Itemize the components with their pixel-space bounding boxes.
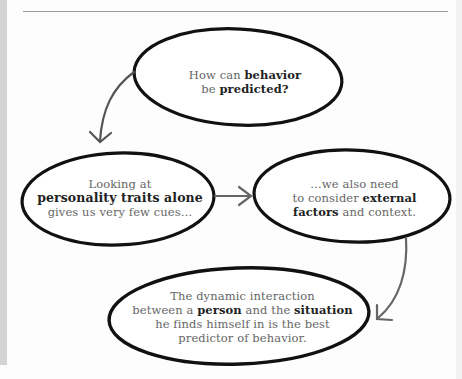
text-segment: between a [132, 303, 197, 317]
text-segment-bold: predicted? [219, 82, 288, 96]
text-line: factors and context. [262, 205, 447, 219]
text-segment: to consider [293, 191, 363, 205]
text-segment-bold: factors [293, 205, 339, 219]
text-line: be predicted? [165, 82, 325, 96]
node-traits-text: Looking at personality traits alone give… [30, 177, 210, 219]
text-line: personality traits alone [30, 191, 210, 205]
text-line: to consider external [262, 191, 447, 205]
text-line: How can behavior [165, 68, 325, 82]
text-segment: gives us very few cues… [48, 205, 193, 219]
arrow-external-to-conclusion [377, 238, 406, 320]
text-segment: …we also need [310, 177, 399, 191]
node-external-text: …we also need to consider external facto… [262, 177, 447, 219]
text-segment: be [201, 82, 219, 96]
text-segment: he finds himself in is the best [155, 317, 330, 331]
text-segment: and context. [339, 205, 416, 219]
text-segment-bold: personality traits alone [37, 190, 203, 205]
node-conclusion-text: The dynamic interaction between a person… [115, 289, 370, 345]
text-segment: predictor of behavior. [178, 331, 306, 345]
text-segment: How can [189, 68, 245, 82]
text-line: Looking at [30, 177, 210, 191]
text-segment: and the [242, 303, 294, 317]
text-segment: Looking at [88, 177, 151, 191]
node-question-text: How can behavior be predicted? [165, 68, 325, 96]
text-segment-bold: situation [294, 303, 353, 317]
arrow-traits-to-external [215, 187, 251, 205]
text-segment-bold: person [197, 303, 242, 317]
text-segment-bold: external [363, 191, 417, 205]
text-segment-bold: behavior [244, 68, 301, 82]
text-line: predictor of behavior. [115, 331, 370, 345]
text-line: …we also need [262, 177, 447, 191]
text-segment: The dynamic interaction [170, 289, 315, 303]
text-line: The dynamic interaction [115, 289, 370, 303]
text-line: gives us very few cues… [30, 205, 210, 219]
text-line: between a person and the situation [115, 303, 370, 317]
text-line: he finds himself in is the best [115, 317, 370, 331]
arrow-question-to-traits [90, 72, 134, 142]
